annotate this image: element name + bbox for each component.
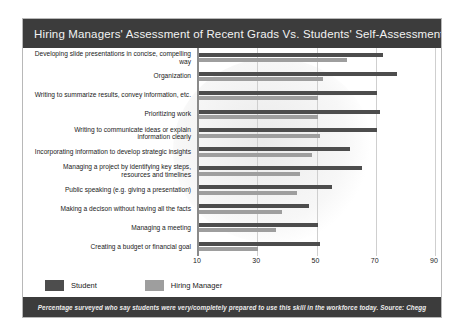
bar-hiring-manager xyxy=(199,228,276,232)
legend-swatch-student-icon xyxy=(45,280,64,291)
bar-hiring-manager xyxy=(199,58,347,62)
value-axis: 1030507090 xyxy=(197,256,435,272)
category-label: Creating a budget or financial goal xyxy=(91,243,191,251)
chart-footnote: Percentage surveyed who say students wer… xyxy=(38,304,427,311)
bar-student xyxy=(199,147,350,151)
bar-student xyxy=(199,223,318,227)
bar-hiring-manager xyxy=(199,134,320,138)
bar-student xyxy=(199,204,309,208)
legend-item-student: Student xyxy=(45,280,97,291)
bar-student xyxy=(199,110,380,114)
gridline-70 xyxy=(376,48,377,256)
bar-hiring-manager xyxy=(199,210,282,214)
bar-hiring-manager xyxy=(199,77,323,81)
category-axis: Developing slide presentations in concis… xyxy=(23,48,197,256)
legend-item-hiring-manager: Hiring Manager xyxy=(145,280,222,291)
category-label: Making a decison without having all the … xyxy=(61,205,191,213)
page-title: Hiring Managers' Assessment of Recent Gr… xyxy=(34,28,442,40)
x-tick-label: 50 xyxy=(312,257,320,264)
category-label: Incorporating information to develop str… xyxy=(35,148,191,156)
bar-hiring-manager xyxy=(199,153,312,157)
x-tick-label: 30 xyxy=(252,257,260,264)
legend-swatch-manager-icon xyxy=(145,280,164,291)
bar-student xyxy=(199,72,397,76)
x-tick-label: 10 xyxy=(193,257,201,264)
chart-title-bar: Hiring Managers' Assessment of Recent Gr… xyxy=(23,19,441,48)
bar-hiring-manager xyxy=(199,115,318,119)
plot-region: Developing slide presentations in concis… xyxy=(23,48,441,256)
x-tick-label: 70 xyxy=(371,257,379,264)
bar-student xyxy=(199,166,362,170)
category-label: Managing a meeting xyxy=(131,224,191,232)
gridline-90 xyxy=(435,48,436,256)
chart-legend: Student Hiring Manager xyxy=(23,272,441,298)
chart-card: Hiring Managers' Assessment of Recent Gr… xyxy=(22,18,442,318)
bar-student xyxy=(199,128,377,132)
category-label: Developing slide presentations in concis… xyxy=(23,50,191,65)
category-label: Managing a project by identifying key st… xyxy=(63,163,191,178)
plot-area xyxy=(197,48,435,256)
chart-footer-bar: Percentage surveyed who say students wer… xyxy=(23,297,441,317)
category-label: Writing to communicate ideas or explain … xyxy=(74,126,191,141)
legend-label-hiring-manager: Hiring Manager xyxy=(171,281,222,290)
bar-hiring-manager xyxy=(199,191,297,195)
bar-hiring-manager xyxy=(199,172,300,176)
bar-student xyxy=(199,91,377,95)
bar-hiring-manager xyxy=(199,247,258,251)
bar-student xyxy=(199,53,383,57)
category-label: Prioritizing work xyxy=(144,110,191,118)
category-label: Public speaking (e.g. giving a presentat… xyxy=(65,186,191,194)
bar-student xyxy=(199,185,332,189)
bar-student xyxy=(199,242,320,246)
legend-label-student: Student xyxy=(71,281,97,290)
category-label: Writing to summarize results, convey inf… xyxy=(35,91,191,99)
x-tick-label: 90 xyxy=(430,257,438,264)
category-label: Organization xyxy=(154,72,191,80)
bar-hiring-manager xyxy=(199,96,318,100)
